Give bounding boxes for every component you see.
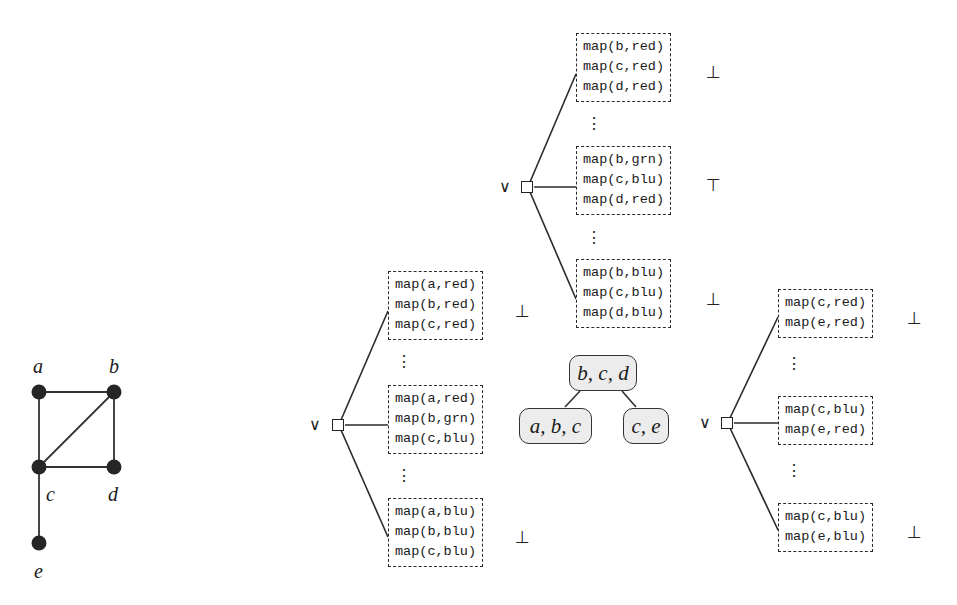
map-row: map(d,red)	[583, 77, 664, 97]
map-row: map(c,blu)	[395, 429, 476, 449]
vertex-b	[107, 385, 122, 400]
map-row: map(a,blu)	[395, 502, 476, 522]
or-node-abc	[332, 419, 344, 431]
vertex-a	[32, 385, 47, 400]
vdots: ⋮	[786, 467, 792, 475]
vertex-label-b: b	[109, 355, 119, 378]
map-row: map(c,blu)	[583, 170, 664, 190]
verdict-bottom: ⊥	[907, 522, 922, 542]
map-row: map(c,blu)	[785, 507, 866, 527]
map-row: map(a,red)	[395, 389, 476, 409]
map-box-bcd-3: map(b,blu) map(c,blu) map(d,blu)	[576, 259, 671, 328]
map-row: map(e,blu)	[785, 527, 866, 547]
vdots: ⋮	[786, 360, 792, 368]
or-symbol-ce: ∨	[699, 413, 711, 432]
or-node-bcd	[521, 181, 533, 193]
td-node-abc: a, b, c	[519, 408, 592, 444]
vertex-label-d: d	[108, 483, 118, 506]
map-row: map(b,red)	[395, 295, 476, 315]
map-row: map(c,red)	[583, 57, 664, 77]
graph-edges	[39, 392, 114, 543]
abc-branches	[341, 311, 388, 537]
map-row: map(e,red)	[785, 420, 866, 440]
map-box-abc-2: map(a,red) map(b,grn) map(c,blu)	[388, 385, 483, 454]
map-box-ce-3: map(c,blu) map(e,blu)	[778, 503, 873, 552]
verdict-bottom: ⊥	[706, 289, 721, 309]
vdots: ⋮	[396, 472, 402, 480]
map-row: map(b,red)	[583, 37, 664, 57]
map-box-ce-1: map(c,red) map(e,red)	[778, 289, 873, 338]
vertex-label-e: e	[34, 560, 43, 583]
vdots: ⋮	[586, 234, 592, 242]
map-row: map(b,blu)	[583, 263, 664, 283]
or-symbol-bcd: ∨	[499, 177, 511, 196]
vertex-d	[107, 460, 122, 475]
verdict-bottom: ⊥	[706, 62, 721, 82]
map-row: map(c,blu)	[395, 542, 476, 562]
ce-branches	[730, 317, 778, 530]
map-row: map(b,grn)	[583, 150, 664, 170]
vertex-e	[32, 536, 47, 551]
verdict-top: ⊤	[706, 175, 721, 195]
vertex-label-c: c	[46, 483, 55, 506]
td-node-ce: c, e	[623, 408, 669, 444]
map-row: map(c,red)	[785, 293, 866, 313]
map-box-ce-2: map(c,blu) map(e,red)	[778, 396, 873, 445]
map-row: map(e,red)	[785, 313, 866, 333]
vdots: ⋮	[586, 120, 592, 128]
map-box-abc-3: map(a,blu) map(b,blu) map(c,blu)	[388, 498, 483, 567]
map-row: map(c,red)	[395, 315, 476, 335]
verdict-bottom: ⊥	[515, 527, 530, 547]
verdict-bottom: ⊥	[907, 308, 922, 328]
map-row: map(b,grn)	[395, 409, 476, 429]
map-row: map(c,blu)	[785, 400, 866, 420]
or-symbol-abc: ∨	[309, 415, 321, 434]
or-node-ce	[721, 417, 733, 429]
map-box-bcd-2: map(b,grn) map(c,blu) map(d,red)	[576, 146, 671, 215]
map-row: map(d,red)	[583, 190, 664, 210]
vertex-label-a: a	[33, 355, 43, 378]
td-edges	[565, 391, 636, 407]
map-row: map(c,blu)	[583, 283, 664, 303]
map-row: map(d,blu)	[583, 303, 664, 323]
map-row: map(b,blu)	[395, 522, 476, 542]
verdict-bottom: ⊥	[515, 301, 530, 321]
map-row: map(a,red)	[395, 275, 476, 295]
vdots: ⋮	[396, 358, 402, 366]
map-box-abc-1: map(a,red) map(b,red) map(c,red)	[388, 271, 483, 340]
vertex-c	[32, 460, 47, 475]
td-node-bcd: b, c, d	[569, 355, 637, 391]
map-box-bcd-1: map(b,red) map(c,red) map(d,red)	[576, 33, 671, 102]
bcd-branches	[530, 74, 576, 299]
